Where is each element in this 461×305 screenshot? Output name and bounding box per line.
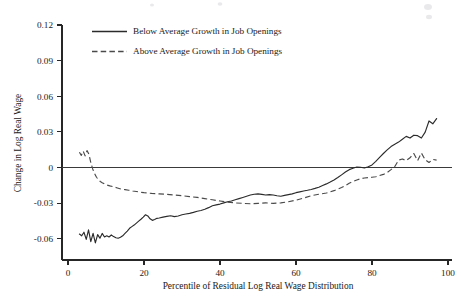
y-tick-label: 0 [48, 163, 53, 173]
x-tick-label: 80 [367, 268, 377, 278]
x-tick-label: 20 [139, 268, 149, 278]
y-tick-label: -0.03 [34, 198, 54, 208]
x-tick-label: 40 [215, 268, 225, 278]
x-axis-title: Percentile of Residual Log Real Wage Dis… [163, 281, 354, 291]
y-tick-label: 0.12 [37, 20, 53, 30]
y-tick-label: -0.06 [34, 234, 54, 244]
legend-label-below: Below Average Growth in Job Openings [133, 26, 282, 36]
y-tick-label: 0.06 [37, 92, 53, 102]
x-tick-label: 0 [66, 268, 71, 278]
x-tick-label: 60 [291, 268, 301, 278]
x-tick-label: 100 [441, 268, 455, 278]
y-tick-label: 0.03 [37, 127, 53, 137]
chart-canvas: -0.06-0.0300.030.060.090.12 020406080100… [0, 0, 461, 305]
chart-figure: -0.06-0.0300.030.060.090.12 020406080100… [0, 0, 461, 305]
y-tick-label: 0.09 [37, 56, 53, 66]
y-axis-title: Change in Log Real Wage [13, 94, 23, 193]
legend-label-above: Above Average Growth in Job Openings [133, 46, 283, 56]
